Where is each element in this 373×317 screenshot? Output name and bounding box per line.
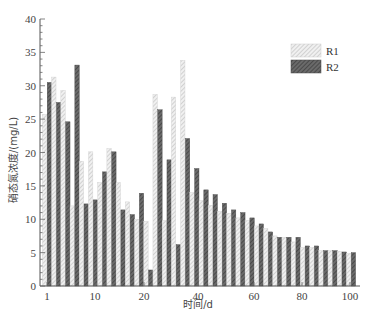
bar-r1-day-31 <box>135 219 139 286</box>
x-axis-title: 时间/d <box>183 298 213 310</box>
bar-r1-day-82 <box>291 242 295 286</box>
bar-r1-day-94 <box>328 251 332 286</box>
bar-r2-day-19 <box>102 172 106 286</box>
bar-r1-day-22 <box>107 149 111 287</box>
bar-r1-day-19 <box>98 183 102 286</box>
bar-r2-day-85 <box>305 246 309 286</box>
bar-r2-day-76 <box>278 237 282 286</box>
bar-r2-day-94 <box>333 251 337 286</box>
bar-r2-day-7 <box>66 122 70 286</box>
legend-label-r1: R1 <box>326 45 339 57</box>
bar-chart: 051015202530354011020406080100时间/d硝态氮浓度/… <box>0 0 373 317</box>
bar-r1-day-52 <box>199 201 203 286</box>
bar-r2-day-25 <box>121 210 125 286</box>
bar-r1-day-88 <box>310 247 314 286</box>
bar-r2-day-73 <box>268 232 272 286</box>
bar-r2-day-31 <box>139 193 143 286</box>
bar-r2-day-97 <box>342 252 346 286</box>
bar-r2-day-16 <box>93 200 97 286</box>
bar-r1-day-58 <box>217 211 221 286</box>
bar-r2-day-10 <box>75 65 79 286</box>
bar-r2-day-64 <box>241 213 245 286</box>
bar-r1-day-79 <box>282 237 286 286</box>
bar-r1-day-73 <box>263 229 267 286</box>
bar-r1-day-46 <box>181 60 185 286</box>
y-tick-label: 25 <box>25 113 37 125</box>
y-axis-title: 硝态氮浓度/(mg/L) <box>7 117 19 203</box>
x-tick-label: 100 <box>342 290 359 302</box>
bar-r1-day-16 <box>88 152 92 286</box>
y-tick-label: 10 <box>25 213 37 225</box>
y-tick-label: 15 <box>25 180 37 192</box>
bar-r2-day-100 <box>351 253 355 286</box>
bar-r2-day-34 <box>149 270 153 286</box>
legend-swatch-r1 <box>291 44 321 57</box>
bars-group <box>42 60 355 286</box>
y-tick-label: 20 <box>25 147 37 159</box>
bar-r2-day-58 <box>222 203 226 286</box>
bar-r2-day-91 <box>324 251 328 286</box>
y-tick-label: 35 <box>25 46 37 58</box>
bar-r2-day-55 <box>213 195 217 286</box>
bar-r2-day-13 <box>84 204 88 286</box>
bar-r1-day-85 <box>300 247 304 286</box>
bar-r2-day-28 <box>130 215 134 286</box>
x-tick-label: 60 <box>249 290 261 302</box>
bar-r1-day-43 <box>171 97 175 286</box>
bar-r1-day-76 <box>273 236 277 286</box>
legend-label-r2: R2 <box>326 61 339 73</box>
legend: R1R2 <box>291 44 339 73</box>
bar-r1-day-7 <box>61 90 65 286</box>
bar-r1-day-100 <box>346 253 350 286</box>
bar-r1-day-25 <box>116 183 120 286</box>
bar-r1-day-1 <box>42 114 46 286</box>
y-tick-label: 30 <box>25 80 37 92</box>
bar-r2-day-88 <box>314 246 318 286</box>
bar-r1-day-37 <box>153 94 157 286</box>
bar-r2-day-22 <box>112 152 116 286</box>
bar-r2-day-4 <box>56 102 60 286</box>
bar-r1-day-64 <box>236 218 240 286</box>
y-tick-label: 0 <box>31 280 37 292</box>
bar-r2-day-61 <box>231 210 235 286</box>
bar-r2-day-40 <box>167 160 171 286</box>
bar-r2-day-82 <box>296 237 300 286</box>
bar-r2-day-46 <box>185 138 189 286</box>
bar-r1-day-13 <box>79 161 83 286</box>
bar-r2-day-43 <box>176 245 180 286</box>
bar-r2-day-1 <box>47 82 51 286</box>
bar-r1-day-4 <box>52 77 56 286</box>
bar-r1-day-34 <box>144 221 148 286</box>
x-tick-label: 20 <box>139 290 151 302</box>
bar-r2-day-52 <box>204 190 208 286</box>
bar-r1-day-10 <box>70 206 74 286</box>
bar-r1-day-91 <box>319 251 323 286</box>
bar-r2-day-67 <box>250 218 254 286</box>
bar-r1-day-97 <box>337 251 341 286</box>
bar-r2-day-79 <box>287 237 291 286</box>
legend-swatch-r2 <box>291 60 321 73</box>
bar-r1-day-28 <box>125 202 129 286</box>
bar-r1-day-49 <box>190 193 194 286</box>
y-tick-label: 5 <box>31 247 37 259</box>
y-tick-label: 40 <box>25 13 37 25</box>
x-tick-label: 10 <box>90 290 102 302</box>
bar-r1-day-70 <box>254 226 258 286</box>
bar-r1-day-67 <box>245 221 249 286</box>
bar-r1-day-61 <box>227 213 231 286</box>
bar-r2-day-37 <box>158 110 162 286</box>
bar-r2-day-49 <box>195 169 199 286</box>
x-tick-label: 80 <box>297 290 309 302</box>
bar-r2-day-70 <box>259 224 263 286</box>
x-tick-label: 1 <box>44 290 50 302</box>
bar-r1-day-40 <box>162 221 166 286</box>
bar-r1-day-55 <box>208 205 212 286</box>
